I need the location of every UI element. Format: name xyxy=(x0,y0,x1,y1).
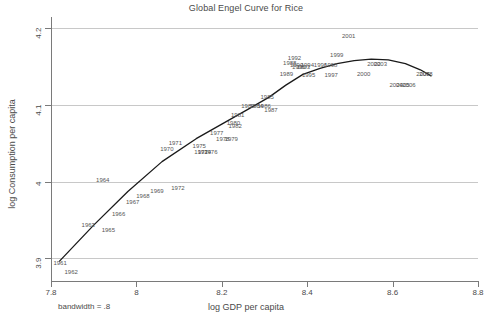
y-tick-label: 4.2 xyxy=(34,28,43,68)
year-label: 1985 xyxy=(260,94,273,100)
year-label: 2001 xyxy=(342,33,355,39)
year-label: 1998 xyxy=(324,62,337,68)
x-tick-label: 7.8 xyxy=(31,288,71,297)
year-label: 1962 xyxy=(64,269,77,275)
year-label: 1965 xyxy=(102,227,115,233)
year-label: 1987 xyxy=(264,107,277,113)
engel-curve xyxy=(51,17,478,281)
year-label: 2008 xyxy=(419,71,432,77)
year-label: 1977 xyxy=(210,130,223,136)
year-label: 1972 xyxy=(171,185,184,191)
year-label: 2000 xyxy=(357,71,370,77)
year-label: 1976 xyxy=(204,149,217,155)
year-label: 1982 xyxy=(228,123,241,129)
year-label: 1997 xyxy=(325,72,338,78)
bandwidth-note: bandwidth = .8 xyxy=(58,302,110,311)
year-label: 1966 xyxy=(112,211,125,217)
year-label: 1969 xyxy=(150,188,163,194)
plot-area: 1961196219631964196519661967196819691970… xyxy=(51,17,478,281)
year-label: 1963 xyxy=(82,222,95,228)
year-label: 1994 xyxy=(301,62,314,68)
year-label: 1975 xyxy=(193,143,206,149)
x-tick-label: 8.4 xyxy=(287,288,327,297)
year-label: 1999 xyxy=(330,52,343,58)
year-label: 1964 xyxy=(96,177,109,183)
year-label: 1970 xyxy=(160,146,173,152)
chart-title: Global Engel Curve for Rice xyxy=(0,3,492,13)
year-label: 1989 xyxy=(280,71,293,77)
year-label: 1981 xyxy=(231,112,244,118)
year-label: 1967 xyxy=(126,199,139,205)
y-tick-label: 4 xyxy=(34,181,43,221)
x-tick-label: 8.6 xyxy=(373,288,413,297)
y-axis-title: log Consumption per capita xyxy=(7,84,17,224)
x-tick xyxy=(478,281,479,287)
curve-line xyxy=(60,59,431,261)
year-label: 1979 xyxy=(225,136,238,142)
year-label: 1971 xyxy=(169,140,182,146)
year-label: 1961 xyxy=(53,260,66,266)
chart-root: Global Engel Curve for Rice log Consumpt… xyxy=(0,0,492,323)
x-axis-line xyxy=(51,281,478,282)
year-label: 1992 xyxy=(288,55,301,61)
year-label: 1995 xyxy=(302,72,315,78)
x-tick-label: 8.2 xyxy=(202,288,242,297)
year-label: 1968 xyxy=(136,193,149,199)
year-label: 2006 xyxy=(402,82,415,88)
y-tick-label: 4.1 xyxy=(34,105,43,145)
x-tick-label: 8 xyxy=(116,288,156,297)
x-tick-label: 8.8 xyxy=(458,288,492,297)
year-label: 2003 xyxy=(374,61,387,67)
